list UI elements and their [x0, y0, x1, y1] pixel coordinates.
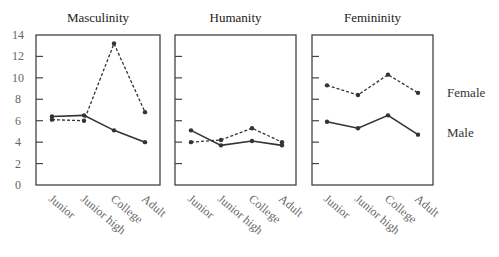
- series-line-female: [191, 128, 282, 142]
- series-line-male: [52, 115, 145, 142]
- series-line-female: [52, 44, 145, 121]
- data-point-male: [112, 128, 116, 132]
- y-tick-label: 10: [12, 71, 24, 85]
- y-tick-label: 6: [15, 114, 21, 128]
- panel-femininity: FemininityJuniorJunior highCollegeAdult: [312, 10, 443, 237]
- chart: 02468101214MasculinityJuniorJunior highC…: [0, 0, 499, 257]
- x-tick-label: Junior: [321, 192, 353, 222]
- y-tick-label: 0: [15, 178, 21, 192]
- data-point-male: [280, 143, 284, 147]
- data-point-male: [82, 113, 86, 117]
- data-point-female: [189, 140, 193, 144]
- data-point-male: [356, 126, 360, 130]
- panel-title: Femininity: [344, 10, 402, 25]
- series-line-male: [191, 130, 282, 145]
- y-tick-label: 4: [15, 135, 21, 149]
- data-point-female: [356, 93, 360, 97]
- data-point-female: [143, 110, 147, 114]
- series-line-male: [327, 115, 418, 134]
- panel-title: Masculinity: [67, 10, 130, 25]
- data-point-female: [416, 91, 420, 95]
- data-point-female: [250, 126, 254, 130]
- data-point-female: [325, 83, 329, 87]
- y-tick-label: 8: [15, 92, 21, 106]
- data-point-male: [50, 114, 54, 118]
- data-point-male: [250, 139, 254, 143]
- data-point-male: [189, 128, 193, 132]
- y-tick-label: 2: [15, 157, 21, 171]
- y-tick-label: 12: [12, 49, 24, 63]
- legend-label-female: Female: [447, 85, 485, 100]
- data-point-male: [416, 132, 420, 136]
- data-point-male: [325, 120, 329, 124]
- panel-frame: [312, 35, 433, 185]
- panel-humanity: HumanityJuniorJunior highCollegeAdult: [175, 10, 307, 237]
- legend-label-male: Male: [447, 125, 474, 140]
- x-tick-label: Junior: [46, 192, 78, 222]
- y-axis-labels: 02468101214: [12, 28, 24, 192]
- series-line-female: [327, 75, 418, 95]
- panel-title: Humanity: [210, 10, 262, 25]
- panel-masculinity: MasculinityJuniorJunior highCollegeAdult: [36, 10, 170, 237]
- panel-frame: [175, 35, 296, 185]
- data-point-female: [219, 138, 223, 142]
- legend: FemaleMale: [447, 85, 485, 140]
- data-point-male: [143, 140, 147, 144]
- data-point-male: [219, 143, 223, 147]
- y-tick-label: 14: [12, 28, 24, 42]
- data-point-female: [82, 119, 86, 123]
- data-point-female: [112, 41, 116, 45]
- data-point-male: [386, 113, 390, 117]
- panel-frame: [36, 35, 160, 185]
- data-point-female: [386, 72, 390, 76]
- x-tick-label: Junior: [185, 192, 217, 222]
